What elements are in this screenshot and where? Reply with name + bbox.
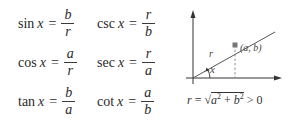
denominator: b bbox=[145, 25, 152, 39]
y-axis-arrow-icon bbox=[191, 10, 196, 18]
function-name: cot bbox=[97, 95, 114, 109]
equals-sign: = bbox=[128, 95, 136, 109]
fraction: b a bbox=[62, 86, 75, 117]
numerator: r bbox=[146, 8, 151, 22]
relation: > 0 bbox=[247, 93, 263, 107]
numerator: b bbox=[65, 86, 72, 100]
denominator: r bbox=[65, 25, 70, 39]
variable: x bbox=[118, 17, 124, 31]
numerator: a bbox=[67, 47, 74, 61]
variable: x bbox=[37, 17, 43, 31]
function-name: csc bbox=[97, 17, 115, 31]
fraction: b r bbox=[61, 8, 74, 39]
variable: x bbox=[38, 95, 44, 109]
plus-sign: + bbox=[224, 93, 231, 107]
variable: x bbox=[40, 56, 46, 70]
radius-label: r bbox=[209, 48, 213, 59]
cot-formula: cot x = a b bbox=[97, 86, 154, 117]
equals-sign: = bbox=[195, 93, 202, 107]
fraction: r b bbox=[142, 8, 155, 39]
numerator: a bbox=[144, 86, 151, 100]
radicand: a2 + b2 bbox=[211, 92, 244, 107]
radius-symbol: r bbox=[187, 93, 192, 107]
function-name: sec bbox=[97, 56, 115, 70]
denominator: b bbox=[144, 103, 151, 117]
function-name: tan bbox=[18, 95, 35, 109]
equals-sign: = bbox=[129, 56, 137, 70]
equals-sign: = bbox=[49, 95, 57, 109]
tan-formula: tan x = b a bbox=[18, 86, 75, 117]
a-exponent: 2 bbox=[217, 92, 221, 101]
point-marker bbox=[233, 43, 238, 48]
cos-formula: cos x = a r bbox=[18, 47, 77, 78]
denominator: a bbox=[65, 103, 72, 117]
denominator: r bbox=[68, 64, 73, 78]
angle-label: x bbox=[209, 63, 215, 75]
equals-sign: = bbox=[49, 17, 57, 31]
fraction: a b bbox=[141, 86, 154, 117]
fraction: r a bbox=[142, 47, 155, 78]
function-name: sin bbox=[18, 17, 34, 31]
equals-sign: = bbox=[129, 17, 137, 31]
function-name: cos bbox=[18, 56, 37, 70]
equals-sign: = bbox=[51, 56, 59, 70]
radius-equation: r = √a2 + b2 > 0 bbox=[187, 92, 263, 108]
x-axis-arrow-icon bbox=[274, 76, 282, 81]
denominator: a bbox=[145, 64, 152, 78]
point-label: (a, b) bbox=[240, 42, 262, 54]
radius-line bbox=[193, 32, 275, 78]
sec-formula: sec x = r a bbox=[97, 47, 155, 78]
numerator: r bbox=[146, 47, 151, 61]
variable: x bbox=[117, 95, 123, 109]
fraction: a r bbox=[64, 47, 77, 78]
right-triangle-diagram: x r (a, b) bbox=[180, 8, 292, 88]
numerator: b bbox=[64, 8, 71, 22]
b-exponent: 2 bbox=[240, 92, 244, 101]
csc-formula: csc x = r b bbox=[97, 8, 155, 39]
variable: x bbox=[118, 56, 124, 70]
sin-formula: sin x = b r bbox=[18, 8, 74, 39]
